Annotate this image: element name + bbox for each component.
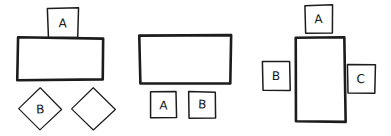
g2-rectangle[interactable] <box>139 35 231 83</box>
diamond-outline <box>72 88 116 130</box>
g1-square-a[interactable]: A <box>47 8 78 38</box>
g2-square-a[interactable]: A <box>151 91 177 117</box>
g1-diamond-b-label: B <box>36 102 45 116</box>
g1-rectangle[interactable] <box>17 37 103 80</box>
g1-square-a-label: A <box>58 16 67 30</box>
group-3: ABC <box>262 5 375 122</box>
shapes-sketch: ABABABC <box>0 0 391 136</box>
shape-layer: ABABABC <box>17 5 375 130</box>
g3-square-b[interactable]: B <box>262 61 290 90</box>
g3-square-a[interactable]: A <box>305 5 333 34</box>
g3-square-c[interactable]: C <box>347 65 375 94</box>
g1-diamond-empty[interactable] <box>72 88 116 130</box>
rectangle-outline <box>296 37 346 122</box>
g3-square-c-label: C <box>357 72 365 86</box>
g2-square-a-label: A <box>159 98 169 112</box>
group-2: AB <box>139 35 231 118</box>
g3-square-a-label: A <box>314 12 324 26</box>
g2-square-b[interactable]: B <box>189 92 216 119</box>
g3-square-b-label: B <box>272 69 281 83</box>
g3-rectangle-tall[interactable] <box>296 37 346 122</box>
g1-diamond-b[interactable]: B <box>19 88 62 130</box>
rectangle-outline <box>139 35 231 83</box>
rectangle-outline <box>17 37 103 80</box>
g2-square-b-label: B <box>198 97 207 111</box>
group-1: AB <box>17 8 115 130</box>
diagram-canvas: ABABABC <box>0 0 391 136</box>
